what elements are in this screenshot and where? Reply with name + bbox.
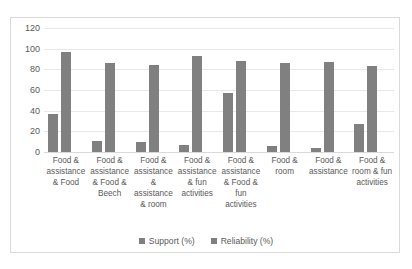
bar-support <box>354 124 364 152</box>
y-tick-label: 120 <box>25 24 40 33</box>
bar-reliability <box>367 66 377 152</box>
bar-group <box>88 28 132 152</box>
bar-reliability <box>61 52 71 152</box>
legend-label: Reliability (%) <box>221 236 274 246</box>
legend-item[interactable]: Reliability (%) <box>211 236 274 246</box>
chart-legend: Support (%)Reliability (%) <box>0 236 412 246</box>
plot-area <box>44 28 394 152</box>
bar-group <box>219 28 263 152</box>
bar-group <box>350 28 394 152</box>
bar-reliability <box>192 56 202 152</box>
x-tick-label: Food & assistance & fun activities <box>175 155 219 199</box>
x-tick-label: Food & room <box>263 155 307 177</box>
bar-reliability <box>280 63 290 152</box>
y-tick-label: 0 <box>35 148 40 157</box>
bar-chart: 020406080100120 Food & assistance & Food… <box>0 0 412 269</box>
y-tick-label: 100 <box>25 44 40 53</box>
bar-group <box>175 28 219 152</box>
bar-reliability <box>236 61 246 152</box>
bar-reliability <box>324 62 334 152</box>
legend-item[interactable]: Support (%) <box>139 236 195 246</box>
x-tick-label: Food & assistance & assistance & room <box>132 155 176 210</box>
bar-group <box>307 28 351 152</box>
x-tick-label: Food & room & fun activities <box>350 155 394 188</box>
y-tick-label: 60 <box>30 86 40 95</box>
x-tick-label: Food & assistance & Food <box>44 155 88 188</box>
bar-support <box>223 93 233 152</box>
bars-layer <box>44 28 394 152</box>
x-tick-label: Food & assistance & Food & fun activitie… <box>219 155 263 210</box>
y-tick-label: 20 <box>30 127 40 136</box>
bar-support <box>136 142 146 152</box>
x-axis-labels: Food & assistance & FoodFood & assistanc… <box>44 155 394 230</box>
legend-swatch-icon <box>139 238 145 244</box>
x-tick-label: Food & assistance <box>307 155 351 177</box>
bar-support <box>48 114 58 152</box>
bar-group <box>44 28 88 152</box>
legend-swatch-icon <box>211 238 217 244</box>
bar-support <box>179 145 189 152</box>
y-tick-label: 80 <box>30 65 40 74</box>
legend-label: Support (%) <box>149 236 195 246</box>
bar-support <box>92 141 102 152</box>
bar-reliability <box>105 63 115 152</box>
y-axis-labels: 020406080100120 <box>10 28 40 152</box>
bar-group <box>132 28 176 152</box>
y-tick-label: 40 <box>30 106 40 115</box>
bar-support <box>311 148 321 152</box>
bar-reliability <box>149 65 159 152</box>
x-tick-label: Food & assistance & Food & Beech <box>88 155 132 199</box>
bar-group <box>263 28 307 152</box>
bar-support <box>267 146 277 152</box>
